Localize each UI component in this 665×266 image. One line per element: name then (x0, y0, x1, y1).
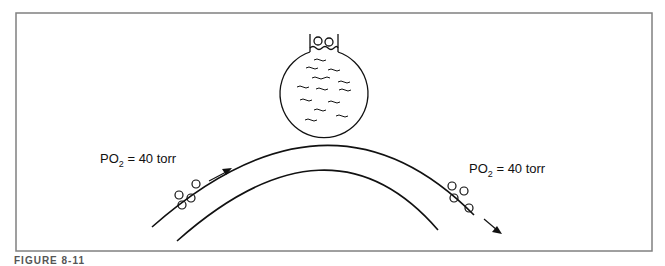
po2-left-prefix: PO (100, 151, 119, 166)
po2-left-suffix: = 40 torr (124, 151, 176, 166)
flow-arrow-down-right-icon (484, 219, 502, 234)
po2-label-left: PO2 = 40 torr (100, 151, 176, 169)
red-cells-right (448, 182, 473, 212)
po2-right-prefix: PO (469, 161, 488, 176)
capillary-outer-wall (152, 145, 474, 227)
capillary-inner-wall (177, 170, 438, 241)
po2-right-suffix: = 40 torr (493, 161, 545, 176)
flow-arrow-right-icon (209, 168, 232, 181)
po2-label-right: PO2 = 40 torr (469, 161, 545, 179)
figure-caption: FIGURE 8-11 (14, 255, 85, 266)
flask-icon (280, 34, 368, 138)
